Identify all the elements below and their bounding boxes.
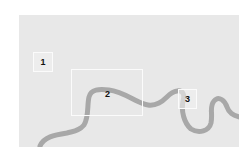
- zone-box-2[interactable]: 2: [71, 69, 143, 116]
- zone-box-3[interactable]: 3: [178, 89, 197, 109]
- zone-label-3: 3: [185, 95, 190, 104]
- zone-box-1[interactable]: 1: [33, 52, 53, 72]
- zone-label-2: 2: [105, 90, 110, 99]
- zone-label-1: 1: [40, 58, 45, 67]
- map-area[interactable]: 1 2 3: [19, 15, 239, 147]
